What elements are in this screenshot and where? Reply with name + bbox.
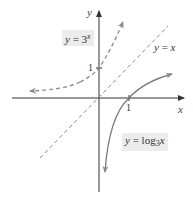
log-curve-upper [129,74,172,98]
log-curve-label: y = log3x [122,133,168,151]
x-tick-label-1: 1 [126,103,131,113]
y-axis-label: y [87,7,92,18]
lin-label-x: x [171,41,176,53]
exp-label-eq: = 3 [70,33,87,45]
exp-curve-label: y = 3x [62,30,94,46]
y-tick-label-1: 1 [88,63,93,73]
log-label-eq: = log [130,134,156,146]
lin-label-eq: = [159,41,171,53]
exp-curve [30,82,80,91]
log-label-x: x [160,134,165,146]
function-plot [0,0,193,199]
exp-label-sup: x [87,32,91,41]
identity-line-label: y = x [154,41,176,53]
x-axis-label: x [178,104,183,115]
